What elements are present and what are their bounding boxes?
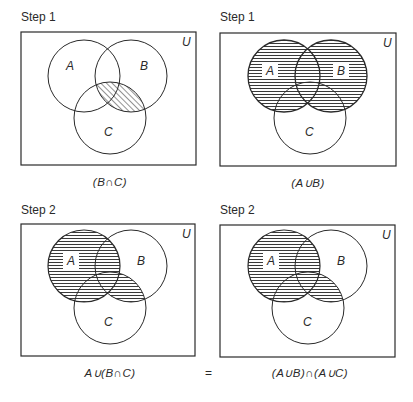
panel-1-caption: (B∩C) [60, 176, 160, 188]
universe-label: U [383, 36, 392, 50]
panel-2-venn [220, 33, 396, 166]
set-a-label: A [66, 254, 75, 268]
set-b-label: B [337, 64, 345, 78]
set-b-label: B [337, 254, 345, 268]
set-b-label: B [137, 254, 145, 268]
panel-3-caption: A∪(B∩C) [55, 366, 165, 380]
equals-sign: = [205, 366, 212, 380]
panel-4-venn [220, 225, 395, 357]
set-c-label: C [305, 125, 314, 139]
universe-label: U [182, 227, 191, 241]
panel-2-caption: (A∪B) [258, 176, 358, 190]
set-a-label: A [266, 254, 275, 268]
set-c-label: C [303, 315, 312, 329]
set-c-label: C [104, 315, 113, 329]
panel-3-venn [21, 224, 195, 356]
set-b-label: B [140, 59, 148, 73]
set-c-label: C [104, 125, 113, 139]
panel-4-caption: (A∪B)∩(A∪C) [245, 366, 375, 380]
set-a-label: A [265, 64, 274, 78]
set-a-label: A [65, 59, 74, 73]
universe-label: U [382, 228, 391, 242]
set-a-circle [48, 40, 120, 112]
panel-1-venn [21, 32, 196, 165]
venn-diagram-canvas: A B C U A B C U A B C U A B C U [0, 0, 413, 402]
universe-label: U [182, 35, 191, 49]
